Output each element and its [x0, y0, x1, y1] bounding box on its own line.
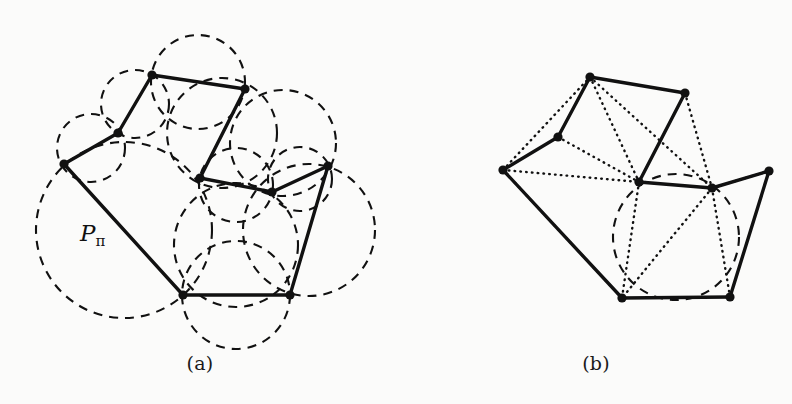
vertex-v4	[240, 84, 249, 93]
vertex-u3	[585, 72, 594, 81]
panel-b-canvas	[400, 0, 792, 404]
vertex-v7	[323, 161, 332, 170]
polygon-edge-v3-v4	[152, 75, 245, 89]
polygon-edge-a-u7	[712, 171, 769, 188]
diagonal-u1-u3	[503, 77, 590, 170]
vertex-c	[617, 293, 626, 302]
vertex-v5	[195, 173, 204, 182]
panel-b-caption: (b)	[400, 352, 792, 374]
panel-b-polygon-edges	[503, 77, 769, 298]
vertex-v9	[178, 290, 187, 299]
panel-b: Pπ a b c (b)	[400, 0, 792, 404]
polygon-edge-u4-u5	[639, 93, 685, 182]
polygon-edge-b-c	[622, 297, 730, 298]
polygon-edge-u1-u2	[503, 137, 558, 170]
panel-b-dashed-circles	[613, 174, 739, 300]
vertex-u2	[553, 132, 562, 141]
circumcircle-a-8	[174, 183, 298, 307]
polygon-edge-v6-v7	[272, 166, 328, 192]
vertex-u5	[634, 177, 643, 186]
polygon-edge-u5-a	[639, 182, 712, 188]
vertex-u1	[498, 165, 507, 174]
panel-a-polygon-label: Pπ	[80, 222, 105, 249]
polygon-edge-v1-v2	[64, 133, 118, 164]
vertex-v2	[113, 128, 122, 137]
vertex-v6	[267, 187, 276, 196]
vertex-v1	[59, 159, 68, 168]
vertex-u4	[680, 88, 689, 97]
circumcircle-a-10	[230, 90, 336, 196]
polygon-edge-c-u1	[503, 170, 622, 298]
panel-a-canvas	[0, 0, 400, 404]
diagonal-u4-a	[685, 93, 712, 188]
vertex-v3	[147, 70, 156, 79]
panel-b-vertices	[498, 72, 773, 302]
vertex-b	[725, 292, 734, 301]
panel-a-vertices	[59, 70, 332, 299]
vertex-u7	[764, 166, 773, 175]
figure-container: Pπ (a) Pπ a b c (b)	[0, 0, 792, 404]
panel-b-triangulation-diagonals	[503, 77, 769, 298]
diagonal-u3-u5	[590, 77, 639, 182]
polygon-edge-v2-v3	[118, 75, 152, 133]
polygon-edge-u7-b	[730, 171, 769, 297]
panel-a-polygon-edges	[64, 75, 328, 295]
diagonal-u2-u5	[558, 137, 639, 182]
polygon-edge-v4-v5	[200, 89, 245, 178]
panel-a-polygon-label-letter: P	[80, 220, 95, 246]
diagonal-u3-a	[590, 77, 712, 188]
polygon-edge-u3-u4	[590, 77, 685, 93]
circumcircle-b-0	[613, 174, 739, 300]
panel-a: Pπ (a)	[0, 0, 400, 404]
panel-a-polygon-label-subscript: π	[95, 232, 105, 250]
vertex-a	[707, 183, 716, 192]
panel-a-caption: (a)	[0, 352, 400, 374]
vertex-v8	[285, 290, 294, 299]
